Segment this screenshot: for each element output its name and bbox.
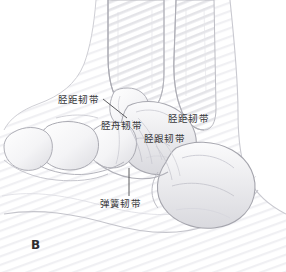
label-tibiocalcaneal-ligament: 胫跟韧带 (144, 134, 185, 144)
label-tibionavicular-ligament: 胫舟韧带 (101, 121, 142, 131)
figure-panel-letter: B (31, 238, 41, 252)
label-tibiotalar-ligament-right: 胫距韧带 (168, 114, 209, 124)
label-tibiotalar-ligament-left: 胫距韧带 (58, 95, 99, 105)
ankle-ligament-illustration (0, 0, 286, 272)
anatomy-figure-panel: 胫距韧带 胫舟韧带 胫距韧带 胫跟韧带 弹簧韧带 B (0, 0, 286, 272)
label-spring-ligament: 弹簧韧带 (100, 199, 141, 209)
